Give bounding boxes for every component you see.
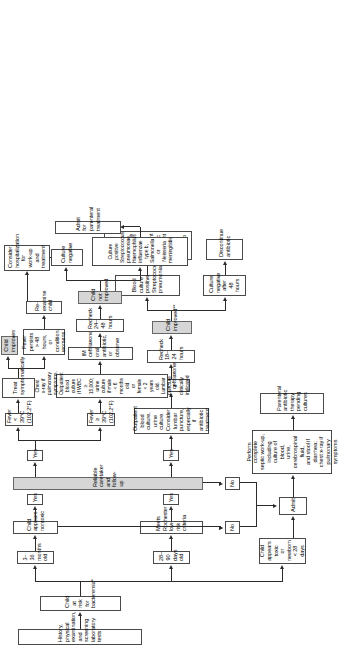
node-fever-persists: Fever persists > 48 hours, or condition … xyxy=(23,329,65,355)
fever-split-vertical xyxy=(18,440,100,441)
split-treat-vertical xyxy=(8,368,44,369)
arrow-bus-28-90 xyxy=(169,565,173,569)
node-culture-negative: Culture negative xyxy=(51,249,83,266)
connector-bus-28-90 xyxy=(171,568,172,582)
arrow-toxic-admit xyxy=(291,517,295,521)
arrow-im1-recheck18 xyxy=(169,364,173,368)
label-no-reliable-text: No xyxy=(229,480,236,487)
connector-atrisk-bus xyxy=(80,582,81,596)
node-rochester-criteria: Meets Rochester low-risk criteria xyxy=(140,521,203,534)
node-outpatient-cultures: Outpatient blood culture, urine culture.… xyxy=(134,408,209,434)
node-child-improved-label: Child improved** xyxy=(165,324,178,331)
arrow-split-culneg48 xyxy=(223,297,227,301)
connector-history-atrisk xyxy=(80,615,81,629)
arrow-septic-parenteral xyxy=(291,415,295,419)
arrow-no-bus-admit xyxy=(273,505,277,509)
connector-admit-septic xyxy=(293,478,294,497)
label-yes-nontoxic-text: Yes xyxy=(32,497,39,502)
node-parenteral-therapy-label: Parenteral antibiotic therapy pending cu… xyxy=(276,396,309,411)
node-discontinue-antibiotic: Discontinue antibiotic xyxy=(206,239,243,260)
connector-split-fever-ge xyxy=(100,430,101,441)
node-rochester-label: Meets Rochester low-risk criteria xyxy=(155,524,188,531)
node-treat-symptomatically: Treat symptomatically xyxy=(2,378,35,398)
connector-rochester-yes xyxy=(171,509,172,521)
arrow-reliable-yes36 xyxy=(33,462,37,466)
connector-treat-split xyxy=(18,369,19,378)
node-child-not-improved-label: Child not improved xyxy=(90,294,110,301)
node-fever-ge-39-label: Fever ≥ 39°C (102.2°F) xyxy=(88,416,114,423)
label-yes-rochester: Yes xyxy=(163,494,179,505)
label-yes-nontoxic: Yes xyxy=(27,494,43,505)
connector-outpatient-im1 xyxy=(171,396,172,408)
node-recheck-18-24-label: Recheck 18–24 hours xyxy=(158,353,184,360)
arrow-bus-3-36 xyxy=(33,565,37,569)
connector-septic-parenteral xyxy=(293,418,294,430)
arrow-feverlt-treat xyxy=(16,399,20,403)
node-fever-lt-39: Fever < 39°C (102.2°F) xyxy=(5,413,33,426)
connector-reliable-yes36 xyxy=(35,465,36,477)
connector-yes36-feversplit xyxy=(35,441,36,450)
node-consider-hospitalization: Consider hospitalization for work-up and… xyxy=(4,245,50,271)
label-yes-reliable-36-text: Yes xyxy=(32,453,39,458)
arrow-split-bcpos xyxy=(145,297,149,301)
connector-nontoxic-no-v xyxy=(58,527,221,528)
label-yes-reliable-28: Yes xyxy=(163,450,179,461)
arrow-split-persists xyxy=(42,356,46,360)
node-re-examine-child-label: Re-examine child xyxy=(34,304,54,311)
no-bus-left xyxy=(240,527,256,528)
connector-toxic-admit xyxy=(293,520,294,538)
node-history: History, physical examination, and scree… xyxy=(18,629,142,645)
node-admit-parenteral: Admit for parenteral treatment xyxy=(55,221,121,234)
connector-split-persists xyxy=(44,359,45,369)
node-admit-parenteral-label: Admit for parenteral treatment xyxy=(75,224,101,231)
node-recheck-18-24: Recheck 18–24 hours xyxy=(147,350,195,363)
connector-culneg48-discontinue xyxy=(225,264,226,275)
arrow-3-36-nontoxic xyxy=(33,535,37,539)
arrow-split-fever-ge xyxy=(98,427,102,431)
arrow-reexamine-hosp xyxy=(25,272,29,276)
connector-split-culneg48 xyxy=(225,300,226,311)
node-child-nontoxic: Child appears nontoxic xyxy=(13,521,58,534)
node-age-28-90-label: 28–90 days old xyxy=(158,554,184,561)
node-age-28-90: 28–90 days old xyxy=(153,551,190,564)
node-fever-ge-39: Fever ≥ 39°C (102.2°F) xyxy=(87,413,115,426)
arrow-cxr-im2 xyxy=(98,361,102,365)
arrow-ferge-cxr xyxy=(98,399,102,403)
connector-bus-3-36 xyxy=(35,568,36,582)
node-recheck-24-48: Recheck 24–48 hours xyxy=(76,319,124,332)
node-culture-negative-48: Culture negative after 48 hours xyxy=(203,275,246,296)
node-child-improves-label: Child improves xyxy=(3,339,16,352)
arrow-culneg48-discontinue xyxy=(223,261,227,265)
node-history-label: History, physical examination, and scree… xyxy=(57,632,103,642)
node-septic-workup: Perform complete septic work-up, includi… xyxy=(252,430,332,474)
connector-feverlt-treat xyxy=(18,402,19,413)
node-child-nontoxic-label: Child appears nontoxic xyxy=(26,524,46,531)
arrow-split-improves xyxy=(6,356,10,360)
node-outpatient-cultures-label: Outpatient blood culture, urine culture.… xyxy=(132,411,211,431)
connector-reliable-yes28 xyxy=(171,465,172,477)
node-age-3-36: 3–36 months old xyxy=(17,551,54,564)
label-no-reliable: No xyxy=(225,477,240,490)
node-treat-symptomatically-label: Treat symptomatically xyxy=(12,381,25,395)
connector-recheck24-notimproved xyxy=(100,308,101,319)
connector-split-culneg xyxy=(66,270,67,281)
label-no-rochester-text: No xyxy=(229,524,236,531)
split-notimproved-vertical xyxy=(66,280,140,281)
connector-nontoxic-yes xyxy=(35,509,36,521)
arrow-nontoxic-no xyxy=(219,526,223,530)
node-child-not-improved: Child not improved xyxy=(78,291,122,304)
connector-split-improves xyxy=(8,359,9,369)
node-culture-positive-label: Culture positive Streptococcus pneumonia… xyxy=(107,240,173,263)
arrow-im2-recheck24 xyxy=(98,333,102,337)
node-cxr-wbc: Chest x-ray if pulmonary symptoms. Outpa… xyxy=(56,374,168,398)
arrow-nontoxic-yes xyxy=(33,506,37,510)
arrow-reliable-no xyxy=(219,482,223,486)
node-child-improved: Child improved** xyxy=(152,321,192,334)
node-im-ceftriaxone-2-label: IM ceftriaxone, oral antibiotic, or obse… xyxy=(81,350,121,357)
label-yes-reliable-28-text: Yes xyxy=(168,453,175,458)
arrow-split-culpos xyxy=(138,267,142,271)
connector-culpos-up xyxy=(124,226,140,227)
node-consider-hospitalization-label: Consider hospitalization for work-up and… xyxy=(7,248,47,268)
connector-persists-reexamine xyxy=(44,318,45,329)
bus-vertical-age xyxy=(35,581,282,582)
